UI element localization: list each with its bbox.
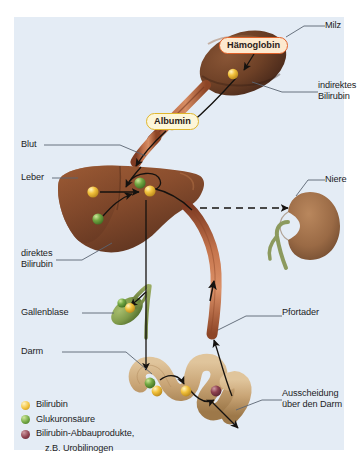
- label-ausscheidung: Ausscheidung über den Darm: [282, 388, 342, 411]
- blood-vessel-to-liver: [136, 137, 156, 162]
- legend-dot-bilirubin: [21, 401, 30, 410]
- label-darm: Darm: [21, 346, 43, 357]
- label-pfortader: Pfortader: [282, 307, 319, 318]
- leader-blut: [44, 145, 146, 156]
- leader-milz: [286, 26, 325, 37]
- bilirubin-sphere-spleen: [228, 69, 238, 79]
- bilirubin-sphere-intestine-1: [152, 386, 163, 397]
- label-indirektes-bilirubin: indirektes Bilirubin: [318, 80, 356, 103]
- legend-item-abbauprodukte-cont: z.B. Urobilinogen: [21, 442, 211, 457]
- legend: Bilirubin Glukuronsäure Bilirubin-Abbaup…: [21, 398, 211, 456]
- glucuronic-sphere-conjugate: [134, 177, 145, 188]
- label-milz: Milz: [325, 20, 341, 31]
- label-niere: Niere: [325, 174, 346, 185]
- haemoglobin-badge: Hämoglobin: [219, 37, 288, 54]
- kidney-organ: [269, 192, 340, 268]
- label-blut: Blut: [21, 139, 36, 150]
- legend-label-abbauprodukte-line2: z.B. Urobilinogen: [45, 442, 113, 455]
- label-direktes-bilirubin: direktes Bilirubin: [21, 248, 53, 271]
- legend-item-bilirubin: Bilirubin: [21, 398, 211, 413]
- bilirubin-metabolism-figure: Hämoglobin Albumin Milz indirektes Bilir…: [0, 0, 358, 459]
- bilirubin-sphere-conjugate: [144, 185, 155, 196]
- label-gallenblase: Gallenblase: [21, 307, 68, 318]
- legend-dot-glukuronsaeure: [21, 415, 30, 424]
- label-leber: Leber: [21, 172, 44, 183]
- glucuronic-sphere-liver: [92, 213, 103, 224]
- breakdown-sphere-intestine: [211, 386, 222, 397]
- bilirubin-sphere-liver-in: [87, 186, 98, 197]
- bilirubin-sphere-gallbladder: [125, 303, 135, 313]
- glucuronic-sphere-gallbladder: [117, 298, 126, 307]
- spleen-organ: [190, 18, 296, 107]
- legend-item-abbauprodukte: Bilirubin-Abbauprodukte,: [21, 427, 211, 442]
- bilirubin-sphere-intestine-2: [181, 386, 192, 397]
- legend-dot-abbauprodukte: [21, 430, 30, 439]
- legend-label-abbauprodukte: Bilirubin-Abbauprodukte,: [36, 427, 134, 440]
- albumin-badge: Albumin: [146, 113, 199, 130]
- legend-item-glukuronsaeure: Glukuronsäure: [21, 413, 211, 428]
- leader-pfortader: [218, 316, 282, 330]
- portal-vein-vessel: [187, 206, 216, 334]
- legend-label-bilirubin: Bilirubin: [36, 398, 68, 411]
- legend-label-glukuronsaeure: Glukuronsäure: [36, 413, 95, 426]
